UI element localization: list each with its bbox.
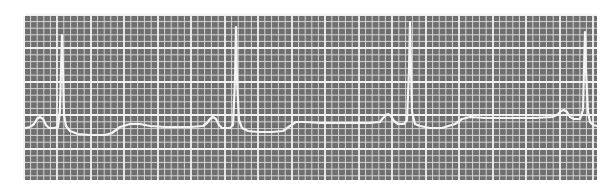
ecg-strip-chart xyxy=(0,0,616,187)
